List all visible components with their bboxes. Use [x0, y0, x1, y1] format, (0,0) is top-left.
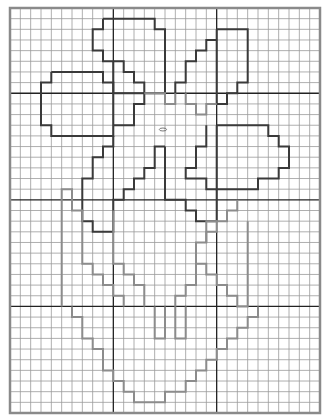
lower-center-petal-outline	[165, 147, 217, 222]
upper-left-petal-steps-outline	[113, 61, 144, 93]
stem-slot-right-outline	[175, 306, 185, 338]
stem-left-outline	[113, 211, 144, 307]
center-oval-mark	[159, 128, 166, 131]
left-petal-extension-outline	[113, 93, 144, 125]
stem-slot-left-outline	[155, 306, 165, 338]
pattern-marks	[159, 128, 166, 131]
center-connector-outline	[144, 93, 175, 104]
grid-pattern-canvas	[0, 0, 329, 419]
